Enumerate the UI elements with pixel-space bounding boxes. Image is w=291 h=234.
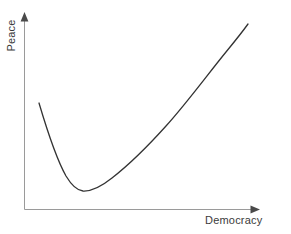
y-axis-label: Peace [6, 14, 17, 58]
x-axis-arrowhead-icon [251, 206, 261, 214]
x-axis-label: Democracy [205, 215, 262, 226]
data-curve-peace-democracy [39, 24, 248, 191]
chart-plot-area [0, 0, 291, 234]
chart-figure: Peace Democracy [0, 0, 291, 234]
y-axis-arrowhead-icon [21, 12, 29, 22]
